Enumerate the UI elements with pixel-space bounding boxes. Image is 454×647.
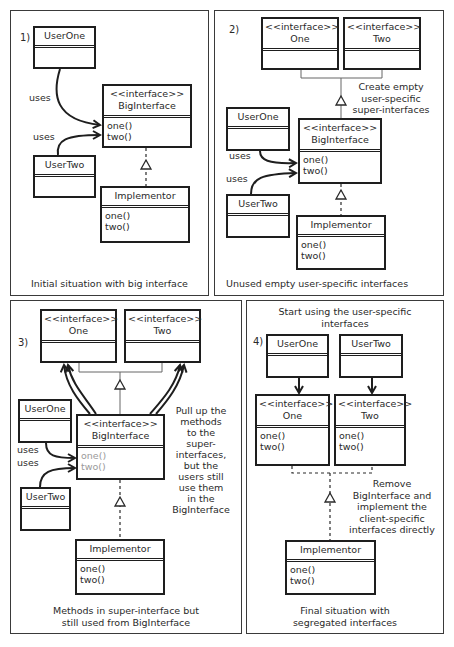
panel-2-note: Create empty user-specific super-interfa… [346, 81, 436, 116]
class-name: UserOne [20, 401, 70, 421]
method-list: one() two() [300, 152, 380, 180]
note-line: to the [165, 427, 237, 438]
method: one() [81, 450, 160, 461]
p3-class-user-one: UserOne [18, 399, 72, 443]
method: one() [260, 430, 325, 441]
p4-class-user-two: UserTwo [339, 334, 403, 378]
class-name: Implementor [102, 188, 188, 208]
note-line: interfaces, [165, 449, 237, 460]
class-name: Two [347, 33, 417, 45]
method-list: one() two() [102, 208, 188, 236]
p3-class-user-two: UserTwo [20, 487, 71, 531]
class-name: BigInterface [106, 100, 188, 112]
note-line: super-interfaces [346, 104, 436, 116]
note-line: Pull up the [165, 405, 237, 416]
p2-class-one: <<interface>> One [261, 17, 339, 70]
panel-1-stage: 1) [20, 32, 30, 43]
method: two() [107, 131, 187, 142]
method: one() [290, 564, 371, 575]
method: one() [339, 430, 401, 441]
class-name: Implementor [298, 217, 384, 237]
stereotype: <<interface>> [128, 313, 197, 325]
method: one() [80, 563, 160, 574]
class-name: UserTwo [228, 196, 288, 216]
class-header: <<interface>> Two [345, 19, 419, 51]
panel-1-caption: Initial situation with big interface [12, 278, 207, 290]
class-header: <<interface>> One [257, 396, 328, 428]
p1-class-implementor: Implementor one() two() [100, 186, 190, 243]
method: one() [301, 239, 381, 250]
method-list: one() two() [336, 428, 404, 456]
class-name: One [44, 325, 113, 337]
note-line: BigInterface and [340, 490, 444, 502]
p3-class-implementor: Implementor one() two() [75, 539, 165, 595]
panel-2-stage: 2) [229, 24, 239, 35]
stereotype: <<interface>> [259, 398, 326, 410]
class-name: Implementor [77, 541, 163, 561]
method-list: one() two() [78, 448, 163, 476]
class-header: <<interface>> BigInterface [104, 86, 190, 118]
panel-4-stage: 4) [253, 336, 263, 347]
uses-label: uses [17, 444, 39, 456]
class-header: <<interface>> BigInterface [300, 120, 380, 152]
class-name: UserTwo [35, 157, 94, 177]
p2-class-implementor: Implementor one() two() [296, 215, 386, 270]
note-line: super- [165, 438, 237, 449]
panel-3-note: Pull up the methods to the super- interf… [165, 405, 237, 515]
note-line: implement the [340, 501, 444, 513]
method: two() [301, 250, 381, 261]
note-line: users still [165, 471, 237, 482]
uses-label: uses [226, 173, 248, 185]
note-line: Create empty [346, 81, 436, 93]
note-line: user-specific [346, 93, 436, 105]
p4-class-user-one: UserOne [266, 334, 329, 378]
panel-4-caption: Final situation with segregated interfac… [248, 605, 442, 629]
note-line: client-specific [340, 513, 444, 525]
class-name: Two [128, 325, 197, 337]
method-list: one() two() [257, 428, 328, 456]
stereotype: <<interface>> [302, 122, 378, 134]
method-list: one() two() [104, 118, 190, 146]
class-name: UserTwo [22, 489, 69, 509]
class-name: BigInterface [80, 430, 161, 442]
panel-3-caption: Methods in super-interface but still use… [12, 605, 240, 629]
stereotype: <<interface>> [265, 21, 335, 33]
panel-4-title: Start using the user-specific interfaces [248, 306, 442, 330]
method: two() [303, 165, 377, 176]
stereotype: <<interface>> [347, 21, 417, 33]
class-name: BigInterface [302, 134, 378, 146]
class-name: Implementor [287, 542, 374, 562]
title-line: interfaces [248, 318, 442, 330]
caption-line: Methods in super-interface but [12, 605, 240, 617]
p3-class-two: <<interface>> Two [124, 309, 201, 363]
p1-class-big-interface: <<interface>> BigInterface one() two() [102, 84, 192, 148]
stereotype: <<interface>> [44, 313, 113, 325]
class-name: One [259, 410, 326, 422]
p2-class-user-one: UserOne [226, 107, 290, 151]
method: two() [105, 221, 185, 232]
note-line: use them [165, 482, 237, 493]
class-name: One [265, 33, 335, 45]
p1-class-user-two: UserTwo [33, 155, 96, 198]
class-name: Two [338, 410, 402, 422]
method-list: one() two() [287, 562, 374, 590]
class-header: <<interface>> One [263, 19, 337, 51]
class-name: UserTwo [341, 336, 401, 356]
p2-class-big-interface: <<interface>> BigInterface one() two() [298, 118, 382, 184]
p2-class-user-two: UserTwo [226, 194, 290, 238]
panel-3-stage: 3) [18, 337, 28, 348]
uses-label: uses [229, 150, 251, 162]
panel-4-note: Remove BigInterface and implement the cl… [340, 478, 444, 536]
stereotype: <<interface>> [80, 418, 161, 430]
method: two() [339, 441, 401, 452]
p3-class-big-interface: <<interface>> BigInterface one() two() [76, 414, 165, 480]
uses-label: uses [33, 131, 55, 143]
title-line: Start using the user-specific [248, 306, 442, 318]
p4-class-one: <<interface>> One one() two() [255, 394, 330, 466]
panel-2-caption: Unused empty user-specific interfaces [226, 278, 408, 290]
method: two() [290, 575, 371, 586]
method: one() [107, 120, 187, 131]
note-line: Remove [340, 478, 444, 490]
class-header: <<interface>> Two [336, 396, 404, 428]
class-header: <<interface>> One [42, 311, 115, 343]
